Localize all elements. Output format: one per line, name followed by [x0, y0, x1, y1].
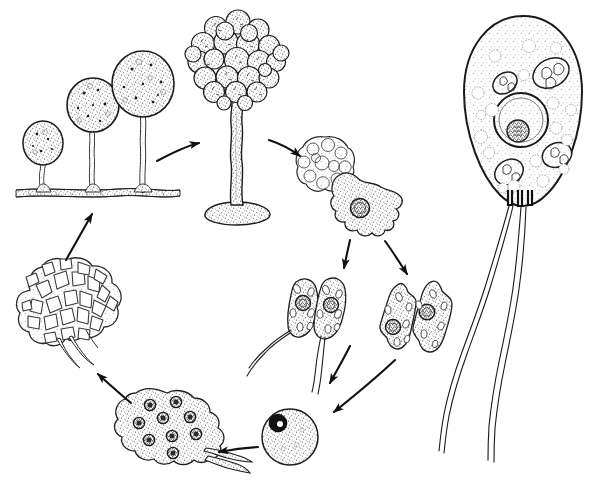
flagellate-basal-bodies — [508, 190, 532, 206]
flagellate-nucleus — [494, 93, 548, 147]
stage-cyst — [262, 409, 318, 465]
diagram-canvas — [0, 0, 605, 484]
life-cycle-diagram: Cellular slime mold (Acrasid / Naegleria… — [0, 0, 605, 484]
myxamoeba-nucleus — [351, 199, 370, 218]
sporangium-stalk — [230, 97, 243, 205]
